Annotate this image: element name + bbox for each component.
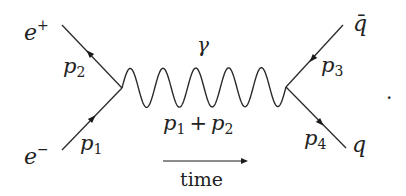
antiquark-momentum-label: p3 bbox=[321, 53, 343, 79]
quark-momentum-label: p4 bbox=[304, 126, 326, 152]
trailing-period: . bbox=[386, 80, 392, 104]
photon-propagator bbox=[122, 68, 286, 108]
antiquark-label: q̄ bbox=[353, 11, 367, 36]
quark-label: q bbox=[352, 132, 366, 157]
feynman-diagram: e+ e− p2 p1 γ p1+p2 q̄ p3 p4 q time . bbox=[0, 0, 406, 196]
positron-momentum-label: p2 bbox=[63, 54, 85, 80]
electron-momentum-label: p1 bbox=[80, 131, 102, 157]
electron-label: e− bbox=[24, 141, 49, 169]
photon-momentum-label: p1+p2 bbox=[163, 111, 233, 137]
time-label: time bbox=[180, 168, 223, 190]
time-arrow-icon bbox=[241, 158, 248, 164]
photon-label: γ bbox=[197, 33, 209, 57]
positron-label: e+ bbox=[24, 17, 49, 45]
